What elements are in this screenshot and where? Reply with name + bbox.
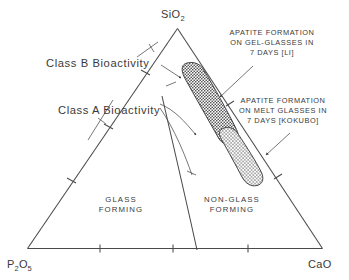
region-label-glass-forming-line2: FORMING [99, 205, 144, 214]
class-b-bracket [137, 42, 158, 57]
gel-glasses-annotation: APATITE FORMATION ON GEL-GLASSES IN 7 DA… [230, 28, 315, 57]
vertex-label-sio2: SiO [161, 8, 180, 20]
class-labels: Class B Bioactivity Class A Bioactivity [46, 57, 160, 116]
vertex-label-p2o5-p: P [7, 258, 15, 270]
gel-annotation-line3: 7 DAYS [LI] [250, 48, 294, 57]
region-label-non-glass-forming-line2: FORMING [210, 205, 255, 214]
ternary-diagram-canvas: SiO 2 P 2 O 5 CaO GLASS FORMING NON-GLAS… [0, 0, 349, 280]
melt-annotation-line3: 7 DAYS [KOKUBO] [247, 116, 319, 125]
class-a-upper-bracket [166, 82, 176, 86]
class-a-leader-2 [160, 108, 192, 175]
class-b-bioactivity-label: Class B Bioactivity [46, 57, 149, 69]
region-label-glass-forming-line1: GLASS [105, 195, 137, 204]
region-label-non-glass-forming-line1: NON-GLASS [204, 195, 260, 204]
triangle-right-edge [178, 29, 323, 249]
melt-glasses-annotation: APATITE FORMATION ON MELT GLASSES IN 7 D… [239, 96, 327, 125]
vertex-label-cao: CaO [308, 258, 332, 270]
melt-annotation-line1: APATITE FORMATION [241, 96, 326, 105]
class-a-bracket-tick [98, 118, 106, 124]
vertex-label-p2o5-sub5: 5 [28, 264, 32, 273]
melt-glasses-leader [266, 133, 290, 155]
ternary-diagram: SiO 2 P 2 O 5 CaO GLASS FORMING NON-GLAS… [0, 0, 349, 280]
melt-glasses-zone-shape [219, 127, 262, 186]
region-labels: GLASS FORMING NON-GLASS FORMING [99, 195, 260, 214]
gel-glasses-leader [220, 66, 253, 97]
vertex-label-sio2-sub: 2 [181, 14, 185, 23]
class-b-leader-1 [161, 65, 181, 78]
gel-annotation-line1: APATITE FORMATION [230, 28, 315, 37]
gel-annotation-line2: ON GEL-GLASSES IN [230, 38, 314, 47]
class-a-bioactivity-label: Class A Bioactivity [58, 104, 160, 116]
melt-glasses-zone [219, 127, 262, 186]
melt-annotation-line2: ON MELT GLASSES IN [239, 106, 327, 115]
